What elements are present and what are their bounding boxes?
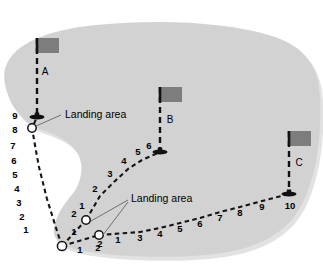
path-number-label: 1 — [115, 234, 121, 245]
path-number-label: 1 — [77, 244, 83, 255]
landing-paths-diagram: ABC Landing areaLanding area 12345678912… — [0, 0, 323, 270]
landing-marker-middle[interactable] — [82, 216, 90, 224]
path-number-label: 9 — [259, 201, 264, 212]
path-number-label: 3 — [107, 168, 112, 179]
callout-lower-text: Landing area — [131, 192, 192, 204]
path-number-label: 7 — [217, 212, 222, 223]
path-number-label: 6 — [197, 218, 202, 229]
flag-a-label: A — [42, 66, 49, 77]
path-number-label: 6 — [11, 155, 16, 166]
path-number-label: 1 — [23, 224, 29, 235]
flag-b-label: B — [167, 114, 174, 125]
diagram-canvas: ABC Landing areaLanding area 12345678912… — [0, 0, 323, 270]
path-number-label: 4 — [157, 228, 163, 239]
path-number-label: 4 — [121, 155, 127, 166]
flag-c-label: C — [295, 157, 302, 168]
flag-b-ground-stem — [158, 148, 162, 153]
land-shape — [4, 22, 320, 257]
path-number-label: 4 — [14, 183, 20, 194]
flag-c-ground-stem — [287, 190, 291, 195]
path-number-label: 10 — [285, 200, 296, 211]
landing-marker-upper-left[interactable] — [28, 124, 36, 132]
flag-a-banner — [37, 38, 59, 53]
path-number-label: 2 — [71, 208, 76, 219]
flag-a-ground-stem — [35, 113, 39, 118]
path-number-label: 6 — [146, 140, 151, 151]
path-number-label: 5 — [135, 146, 141, 157]
path-number-label: 1 — [79, 200, 85, 211]
path-number-label: 8 — [237, 207, 242, 218]
path-number-label: 9 — [12, 110, 17, 121]
path-number-label: 1 — [71, 226, 77, 237]
path-number-label: 8 — [12, 124, 17, 135]
path-number-label: 2 — [95, 242, 100, 253]
path-number-label: 5 — [12, 169, 18, 180]
callout-upper-text: Landing area — [65, 108, 126, 120]
flag-c-banner — [289, 131, 311, 146]
land-shape-group — [4, 22, 323, 261]
path-number-label: 2 — [19, 211, 24, 222]
flag-b-banner — [160, 87, 182, 102]
landing-marker-origin[interactable] — [57, 241, 66, 250]
path-number-label: 7 — [10, 140, 15, 151]
path-number-label: 3 — [137, 232, 142, 243]
path-number-label: 2 — [92, 183, 97, 194]
path-number-label: 5 — [177, 223, 183, 234]
path-number-label: 3 — [16, 197, 21, 208]
